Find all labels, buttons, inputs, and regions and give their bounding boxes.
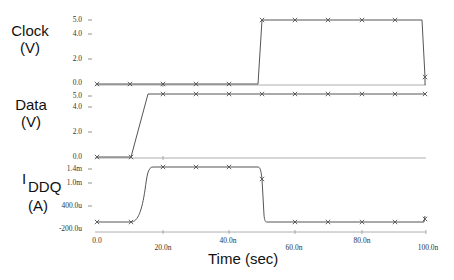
data-markers	[95, 92, 427, 159]
data-series	[97, 94, 426, 157]
clock-series	[97, 20, 425, 85]
waveform-plot	[0, 0, 454, 280]
iddq-series	[97, 167, 425, 222]
